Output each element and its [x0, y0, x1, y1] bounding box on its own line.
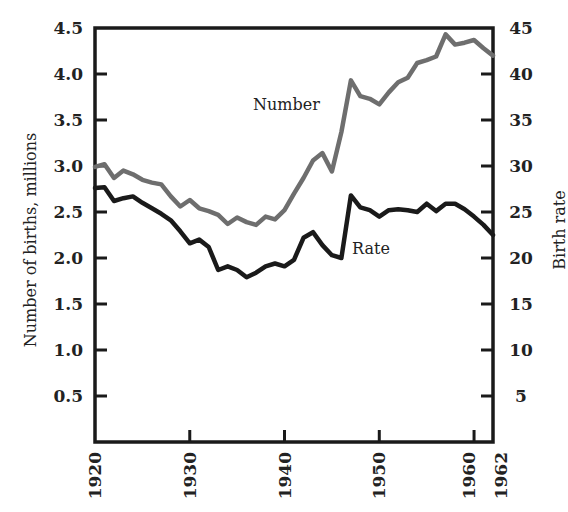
births-chart: 0.51.01.52.02.53.03.54.04.5 510152025303…	[0, 0, 568, 512]
right-tick-label: 45	[509, 18, 533, 38]
right-tick-label: 20	[509, 248, 533, 268]
left-tick-label: 2.0	[53, 248, 83, 268]
left-tick-label: 1.5	[53, 294, 83, 314]
left-tick-label: 4.5	[53, 18, 83, 38]
left-tick-label: 1.0	[53, 340, 83, 360]
right-tick-label: 25	[509, 202, 533, 222]
x-tick-label: 1940	[275, 452, 295, 499]
number-series-label: Number	[253, 95, 320, 114]
right-tick-label: 5	[515, 386, 527, 406]
left-tick-label: 3.0	[53, 156, 83, 176]
x-tick-label: 1930	[180, 452, 200, 499]
left-tick-label: 2.5	[53, 202, 83, 222]
x-tick-label: 1950	[369, 452, 389, 499]
right-tick-label: 15	[509, 294, 533, 314]
left-tick-label: 4.0	[53, 64, 83, 84]
right-axis-title: Birth rate	[550, 190, 568, 269]
left-tick-label: 3.5	[53, 110, 83, 130]
x-tick-label: 1920	[85, 452, 105, 499]
right-tick-label: 10	[509, 340, 533, 360]
right-tick-label: 35	[509, 110, 533, 130]
left-axis-title: Number of births, millions	[21, 133, 40, 347]
rate-series-label: Rate	[352, 239, 390, 258]
left-tick-label: 0.5	[53, 386, 83, 406]
x-tick-label: 1962	[491, 452, 511, 499]
right-tick-label: 30	[509, 156, 533, 176]
right-tick-label: 40	[509, 64, 533, 84]
x-tick-label: 1960	[459, 452, 479, 499]
